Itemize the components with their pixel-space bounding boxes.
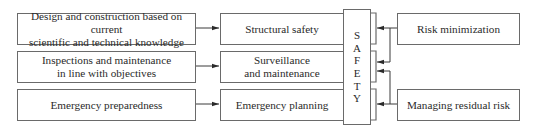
box-text: and maintenance — [244, 67, 319, 80]
box-text: Risk minimization — [417, 23, 500, 36]
box-safety: S A F E T Y — [343, 9, 371, 125]
safety-letter: F — [354, 54, 360, 67]
box-text: scientific and technical knowledge — [18, 36, 195, 49]
box-text: Emergency preparedness — [51, 99, 163, 112]
box-text: Managing residual risk — [407, 99, 510, 112]
box-structural-safety: Structural safety — [220, 13, 344, 45]
box-surveillance-maintenance: Surveillance and maintenance — [220, 51, 344, 83]
arrow-residual-to-surveillance — [377, 71, 390, 104]
box-text: Structural safety — [245, 23, 319, 36]
box-text: Surveillance — [244, 54, 319, 67]
safety-letter: S — [354, 29, 360, 42]
safety-letter: E — [354, 67, 361, 80]
box-design-construction: Design and construction based on current… — [17, 13, 196, 45]
box-text: Inspections and maintenance — [42, 54, 171, 67]
box-inspections-maintenance: Inspections and maintenance in line with… — [17, 51, 196, 83]
box-managing-residual-risk: Managing residual risk — [397, 89, 520, 121]
box-text: Emergency planning — [236, 99, 329, 112]
box-text: in line with objectives — [42, 67, 171, 80]
box-text: Design and construction based on current — [18, 10, 195, 36]
safety-letter: T — [354, 80, 361, 93]
arrow-risk-to-surveillance — [377, 28, 390, 62]
box-risk-minimization: Risk minimization — [397, 13, 520, 45]
safety-letter: A — [353, 42, 361, 55]
safety-letter: Y — [353, 92, 361, 105]
box-emergency-planning: Emergency planning — [220, 89, 344, 121]
box-emergency-preparedness: Emergency preparedness — [17, 89, 196, 121]
